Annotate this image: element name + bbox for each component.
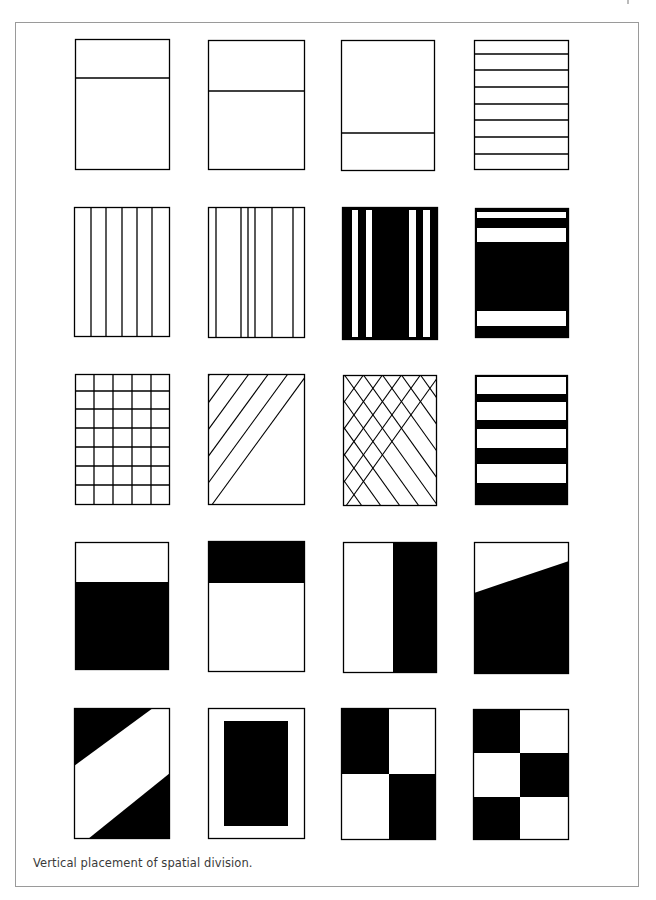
panel-1 [75,39,170,170]
panel-2 [208,40,305,170]
panel-8 [475,208,569,338]
panel-17 [74,708,170,839]
figure-caption: Vertical placement of spatial division. [33,856,253,870]
panel-7 [342,207,438,340]
spatial-division-figures [0,0,656,900]
panel-12 [475,375,568,505]
panel-6 [208,207,305,338]
panel-9 [75,374,170,505]
panel-3 [341,40,435,171]
panel-16 [474,542,569,674]
panel-19 [341,708,436,840]
panel-14 [208,541,305,672]
panel-13 [75,542,169,670]
panel-4 [474,40,569,170]
panel-18 [208,708,305,839]
panel-20 [473,709,569,840]
panel-15 [343,542,437,673]
panel-5 [74,207,170,337]
